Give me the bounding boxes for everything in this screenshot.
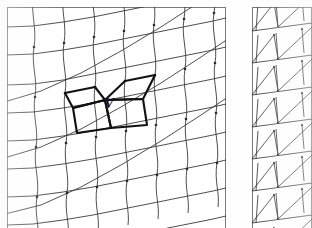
quad-mesh-svg: [7, 7, 226, 228]
vertex-label-v: V: [104, 96, 114, 111]
zigzag-mesh-svg: [252, 7, 312, 228]
figure-root: V: [0, 0, 312, 228]
panel-left-quad-mesh: [7, 7, 226, 228]
panel-right-zigzag-mesh: [252, 7, 312, 228]
